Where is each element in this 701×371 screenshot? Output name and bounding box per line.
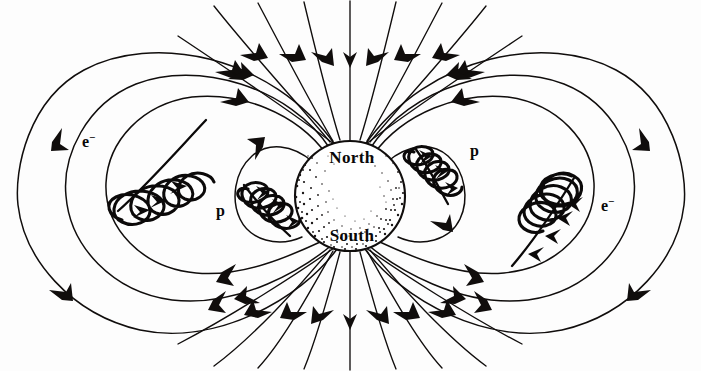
- magnetic-field-diagram: North South: [0, 0, 701, 371]
- planet-north-label: North: [329, 148, 375, 167]
- field-lines-south-open: [178, 248, 522, 370]
- helix-electron-right-arrow-4: [528, 247, 544, 262]
- arrowhead-north-3: [311, 48, 334, 66]
- planet-body: North South: [295, 141, 405, 251]
- arrowhead-left-outer-bottom: [49, 283, 73, 301]
- arrowhead-north-1: [240, 43, 268, 61]
- helix-proton-left: [238, 183, 300, 236]
- arrowhead-left-inner: [247, 137, 265, 160]
- arrowhead-left-third-bottom: [216, 264, 236, 286]
- helix-electron-left: [109, 120, 214, 224]
- particle-label-electron-right: e−: [601, 198, 614, 214]
- arrowhead-north-6: [394, 44, 421, 62]
- arrowhead-left-outer-top: [51, 128, 69, 151]
- arrowhead-right-second-bottom: [474, 291, 492, 313]
- arrowhead-south-3: [311, 306, 334, 324]
- arrowhead-right-third-bottom: [464, 264, 484, 286]
- arrowhead-right-outer-top: [632, 128, 650, 151]
- helix-electron-right: [512, 173, 583, 266]
- planet-south-label: South: [330, 226, 375, 245]
- arrowhead-north-2: [279, 44, 306, 62]
- particle-label-proton-left: p: [216, 203, 225, 219]
- arrowhead-right-outer-bottom: [627, 283, 651, 301]
- helix-proton-right: [404, 147, 462, 204]
- arrowhead-north-5: [366, 48, 389, 66]
- field-line-north-5: [360, 2, 396, 140]
- field-diagram-canvas: North South: [0, 0, 701, 371]
- proton-right-symbol: p: [470, 142, 479, 159]
- arrowhead-north-7: [432, 43, 460, 61]
- particle-label-electron-left: e−: [82, 134, 95, 150]
- arrowhead-right-inner: [430, 214, 453, 232]
- arrowhead-left-second-bottom: [208, 291, 226, 313]
- field-line-north-3: [304, 2, 340, 140]
- electron-left-charge: −: [89, 131, 95, 143]
- field-line-right-outer: [364, 53, 685, 333]
- helix-electron-right-arrow-3: [545, 229, 561, 244]
- field-loops-right: [364, 53, 685, 333]
- particle-label-proton-right: p: [470, 143, 479, 159]
- helix-proton-left-coil: [238, 183, 300, 229]
- field-line-south-6: [367, 251, 442, 368]
- arrowhead-south-5: [366, 306, 389, 324]
- electron-right-charge: −: [608, 195, 614, 207]
- proton-left-symbol: p: [216, 202, 225, 219]
- field-line-south-2: [258, 251, 333, 368]
